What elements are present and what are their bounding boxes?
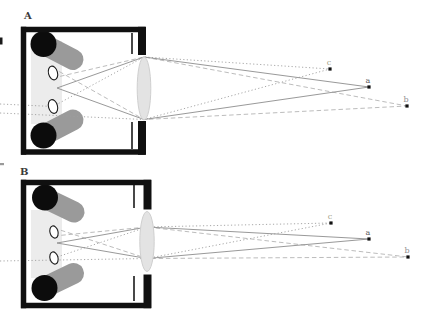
edge-mark-2 — [0, 163, 4, 165]
panel-b-cylinder-cap-1 — [32, 185, 58, 211]
panel-b-image-point-b — [406, 255, 409, 258]
panel-a-point-label-c: c — [327, 58, 332, 67]
panel-a-image-point-a — [367, 85, 370, 88]
panel-b-diffuser-slab — [31, 210, 62, 278]
panel-a-cylinder-cap-1 — [31, 31, 57, 57]
panel-b-image-point-a — [367, 237, 370, 240]
panel-b-point-label-c: c — [328, 212, 333, 221]
panel-a-image-point-c — [328, 67, 331, 70]
panel-label-b: B — [20, 166, 28, 177]
panel-a-image-point-b — [405, 104, 408, 107]
panel-b-cylinder-cap-2 — [32, 275, 58, 301]
panel-label-a: A — [23, 10, 32, 21]
figure-canvas: cabAcabB — [0, 0, 431, 323]
panel-a-point-label-b: b — [403, 95, 408, 104]
panel-b-point-label-b: b — [404, 246, 409, 255]
optics-diagram: cabAcabB — [0, 0, 431, 323]
panel-b-image-point-c — [329, 221, 332, 224]
panel-a-point-label-a: a — [366, 76, 371, 85]
panel-b-point-label-a: a — [366, 228, 371, 237]
panel-a-lens — [137, 57, 151, 120]
panel-a-cylinder-cap-2 — [31, 123, 57, 149]
panel-b-lens — [140, 212, 154, 272]
edge-mark-1 — [0, 38, 3, 45]
